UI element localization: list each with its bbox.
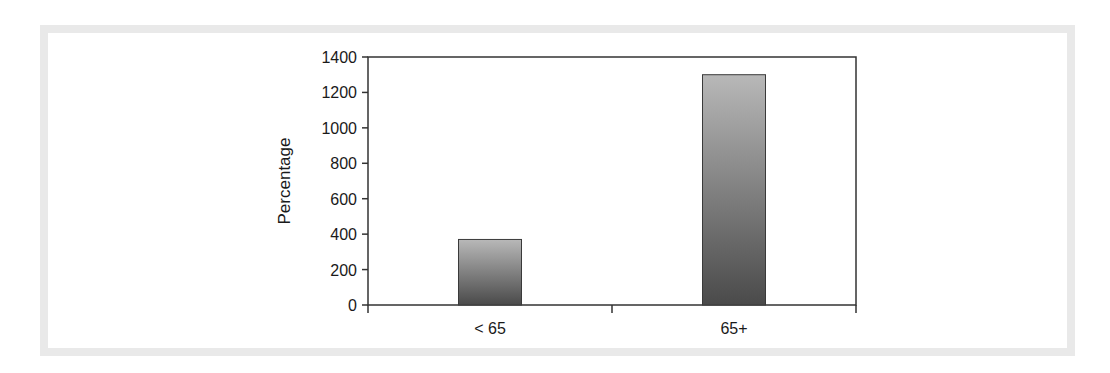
y-axis-title: Percentage xyxy=(275,138,294,225)
plot-area xyxy=(368,57,856,305)
y-tick-label: 1200 xyxy=(321,84,357,101)
y-tick-label: 400 xyxy=(330,226,357,243)
bar-chart: 0200400600800100012001400 < 6565+ Percen… xyxy=(0,0,1110,373)
y-tick-label: 0 xyxy=(348,297,357,314)
bar-under-65 xyxy=(459,239,522,305)
y-tick-label: 1400 xyxy=(321,49,357,66)
y-axis: 0200400600800100012001400 xyxy=(321,49,368,314)
y-tick-label: 800 xyxy=(330,155,357,172)
bar-65-plus xyxy=(703,75,766,305)
y-tick-label: 200 xyxy=(330,262,357,279)
x-tick-label: 65+ xyxy=(720,320,747,337)
x-tick-label: < 65 xyxy=(474,320,506,337)
x-axis: < 6565+ xyxy=(368,305,856,337)
y-tick-label: 1000 xyxy=(321,120,357,137)
y-tick-label: 600 xyxy=(330,191,357,208)
